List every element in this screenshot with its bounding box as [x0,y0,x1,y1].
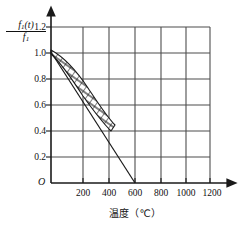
reference-line [51,52,135,183]
chart-figure: f1(t) f1 1.2 1.0 0.8 0.6 0.4 0.2 O 200 4… [0,0,241,228]
plot-area [0,0,241,228]
